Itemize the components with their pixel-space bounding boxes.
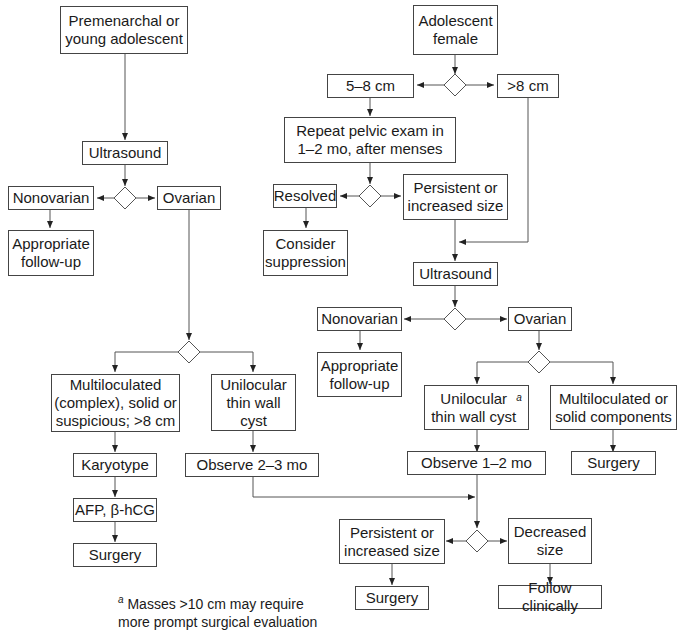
node-surgery-left: Surgery <box>73 543 157 567</box>
node-persistent: Persistent or increased size <box>403 174 508 220</box>
node-consider-suppression: Consider suppression <box>263 230 348 276</box>
node-ovarian-left: Ovarian <box>157 186 221 210</box>
node-persistent-final: Persistent or increased size <box>339 519 445 564</box>
node-appropriate-followup-left: Appropriate follow-up <box>8 230 94 276</box>
node-gt8cm: >8 cm <box>497 74 559 98</box>
footnote-text: Masses >10 cm may require more prompt su… <box>118 596 317 630</box>
node-nonovarian-left: Nonovarian <box>8 186 94 210</box>
node-follow-clinically: Follow clinically <box>498 585 602 609</box>
node-karyotype: Karyotype <box>73 453 157 477</box>
node-surgery-multi: Surgery <box>571 451 656 475</box>
node-multiloculated-left: Multiloculated (complex), solid or suspi… <box>51 374 180 432</box>
node-appropriate-followup-right: Appropriate follow-up <box>317 352 402 397</box>
node-unilocular-left: Unilocular thin wall cyst <box>211 374 296 431</box>
node-5-8cm: 5–8 cm <box>327 74 414 98</box>
unilocular-right-label: Unilocular thin wall cyst <box>431 390 516 426</box>
node-afp-hcg: AFP, β-hCG <box>73 498 157 522</box>
node-nonovarian-right: Nonovarian <box>317 307 402 331</box>
footnote: a Masses >10 cm may require more prompt … <box>118 573 317 631</box>
node-observe-2-3: Observe 2–3 mo <box>185 453 319 477</box>
node-ovarian-right: Ovarian <box>508 307 572 331</box>
node-multiloculated-right: Multiloculated or solid components <box>550 385 677 430</box>
node-ultrasound-right: Ultrasound <box>413 262 498 286</box>
footnote-ref: a <box>516 389 522 407</box>
node-resolved: Resolved <box>273 184 337 208</box>
node-surgery-final: Surgery <box>355 586 429 610</box>
node-decreased-size: Decreased size <box>508 518 592 564</box>
node-ultrasound-left: Ultrasound <box>82 141 168 165</box>
node-adolescent-female: Adolescent female <box>413 5 498 55</box>
node-observe-1-2: Observe 1–2 mo <box>407 451 546 475</box>
node-repeat-pelvic-exam: Repeat pelvic exam in 1–2 mo, after mens… <box>284 117 456 163</box>
node-unilocular-right: Unilocular thin wall cysta <box>424 385 529 430</box>
node-premenarchal: Premenarchal or young adolescent <box>60 6 188 54</box>
